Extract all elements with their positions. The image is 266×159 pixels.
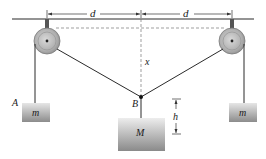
label-mass-left: m xyxy=(32,107,39,118)
pulley-diagram: d d x B A m m M xyxy=(0,0,266,159)
point-b xyxy=(139,95,143,99)
string-left-diagonal xyxy=(57,49,141,97)
label-a: A xyxy=(11,97,19,108)
label-mass-center: M xyxy=(135,127,145,138)
string-right-diagonal xyxy=(141,49,223,97)
label-mass-right: m xyxy=(239,107,246,118)
label-d-right: d xyxy=(183,7,189,19)
label-d-left: d xyxy=(90,7,96,19)
label-x: x xyxy=(144,56,150,67)
right-pulley xyxy=(219,19,245,54)
left-pulley xyxy=(34,19,60,54)
label-h: h xyxy=(173,111,178,122)
label-b: B xyxy=(132,98,138,109)
